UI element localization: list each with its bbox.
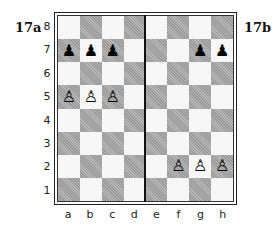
square-c1: [102, 178, 124, 201]
square-g4: [189, 109, 211, 132]
square-h5: [211, 85, 233, 108]
square-d8: [124, 16, 146, 39]
square-d7: [124, 39, 146, 62]
square-b5: ♙: [80, 85, 102, 108]
square-e7: [146, 39, 168, 62]
square-h2: ♙: [211, 155, 233, 178]
square-h3: [211, 132, 233, 155]
square-c2: [102, 155, 124, 178]
rank-label-2: 2: [42, 160, 52, 173]
black-pawn-icon: ♟: [84, 43, 98, 59]
white-pawn-icon: ♙: [84, 89, 98, 105]
square-a8: [58, 16, 80, 39]
square-b7: ♟: [80, 39, 102, 62]
square-d5: [124, 85, 146, 108]
square-a5: ♙: [58, 85, 80, 108]
rank-label-5: 5: [42, 90, 52, 103]
square-d6: [124, 62, 146, 85]
square-c3: [102, 132, 124, 155]
white-pawn-icon: ♙: [171, 158, 185, 174]
square-c4: [102, 109, 124, 132]
white-pawn-icon: ♙: [193, 158, 207, 174]
square-d4: [124, 109, 146, 132]
rank-label-3: 3: [42, 137, 52, 150]
square-g2: ♙: [189, 155, 211, 178]
square-e6: [146, 62, 168, 85]
rank-label-7: 7: [42, 43, 52, 56]
white-pawn-icon: ♙: [106, 89, 120, 105]
square-c8: [102, 16, 124, 39]
square-h7: ♟: [211, 39, 233, 62]
file-label-d: d: [123, 208, 145, 221]
rank-label-4: 4: [42, 114, 52, 127]
square-g7: ♟: [189, 39, 211, 62]
white-pawn-icon: ♙: [62, 89, 76, 105]
square-b8: [80, 16, 102, 39]
square-f8: [167, 16, 189, 39]
file-label-c: c: [101, 208, 123, 221]
rank-label-1: 1: [42, 184, 52, 197]
square-b3: [80, 132, 102, 155]
file-label-f: f: [168, 208, 190, 221]
square-g6: [189, 62, 211, 85]
square-f4: [167, 109, 189, 132]
square-c5: ♙: [102, 85, 124, 108]
square-f5: [167, 85, 189, 108]
file-label-e: e: [145, 208, 167, 221]
square-f7: [167, 39, 189, 62]
white-pawn-icon: ♙: [215, 158, 229, 174]
square-e4: [146, 109, 168, 132]
square-e5: [146, 85, 168, 108]
file-label-b: b: [79, 208, 101, 221]
file-label-a: a: [57, 208, 79, 221]
rank-label-8: 8: [42, 20, 52, 33]
rank-label-6: 6: [42, 67, 52, 80]
square-f6: [167, 62, 189, 85]
square-h1: [211, 178, 233, 201]
square-h6: [211, 62, 233, 85]
square-g3: [189, 132, 211, 155]
square-g5: [189, 85, 211, 108]
black-pawn-icon: ♟: [62, 43, 76, 59]
square-b1: [80, 178, 102, 201]
square-a1: [58, 178, 80, 201]
square-c6: [102, 62, 124, 85]
board-divider-line: [144, 15, 146, 202]
square-g8: [189, 16, 211, 39]
square-b6: [80, 62, 102, 85]
file-label-g: g: [190, 208, 212, 221]
diagram-label-left: 17a: [15, 20, 42, 35]
square-a7: ♟: [58, 39, 80, 62]
square-h4: [211, 109, 233, 132]
black-pawn-icon: ♟: [106, 43, 120, 59]
file-label-h: h: [212, 208, 234, 221]
black-pawn-icon: ♟: [215, 43, 229, 59]
square-h8: [211, 16, 233, 39]
square-d1: [124, 178, 146, 201]
square-a3: [58, 132, 80, 155]
square-f1: [167, 178, 189, 201]
square-f3: [167, 132, 189, 155]
square-a4: [58, 109, 80, 132]
square-e2: [146, 155, 168, 178]
square-d2: [124, 155, 146, 178]
square-a6: [58, 62, 80, 85]
square-f2: ♙: [167, 155, 189, 178]
square-a2: [58, 155, 80, 178]
square-b4: [80, 109, 102, 132]
diagram-label-right: 17b: [244, 20, 271, 35]
square-e1: [146, 178, 168, 201]
square-g1: [189, 178, 211, 201]
square-d3: [124, 132, 146, 155]
square-b2: [80, 155, 102, 178]
square-e8: [146, 16, 168, 39]
square-e3: [146, 132, 168, 155]
black-pawn-icon: ♟: [193, 43, 207, 59]
square-c7: ♟: [102, 39, 124, 62]
